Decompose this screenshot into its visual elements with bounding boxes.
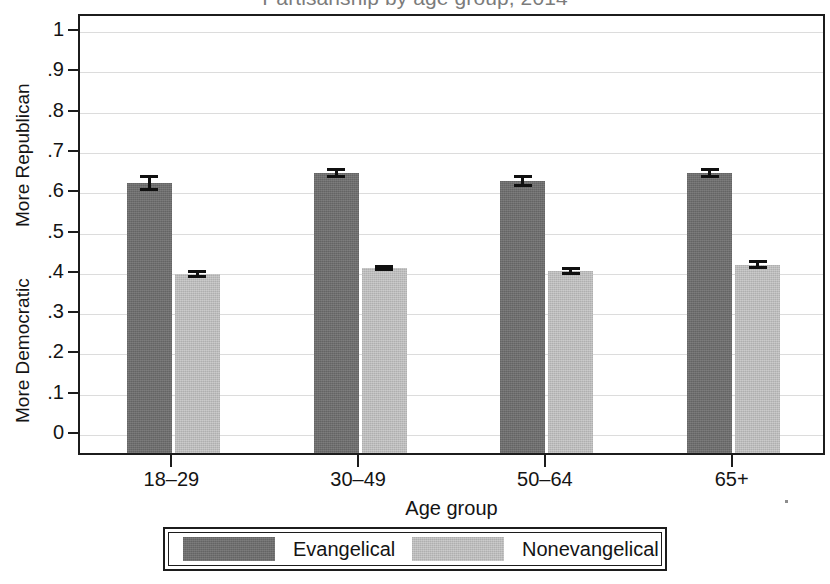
y-axis-label: .2 [12,341,64,361]
error-bar-cap-bottom [140,188,158,191]
y-axis-label: .3 [12,301,64,321]
x-axis-title: Age group [78,497,825,520]
bar-nonevangelical-65+ [735,265,780,455]
legend-swatch-nonevangelical [412,537,504,561]
error-bar-cap-top [562,267,580,270]
y-axis: 0.1.2.3.4.5.6.7.8.91 [0,0,64,584]
plot-area [78,14,825,455]
x-axis-tick [357,455,359,467]
x-axis-label-50-64: 50–64 [475,468,615,491]
legend-label-nonevangelical: Nonevangelical [522,538,659,561]
error-bar-cap-bottom [375,268,393,271]
y-axis-label: 0 [12,422,64,442]
error-bar-cap-bottom [701,175,719,178]
scan-artifact [785,500,788,503]
legend-swatch-evangelical [183,537,275,561]
legend-label-evangelical: Evangelical [293,538,395,561]
bar-evangelical-30-49 [314,173,359,455]
x-axis-tick [544,455,546,467]
chart-figure: Partisanship by age group, 2014 More Rep… [0,0,830,584]
y-axis-label: .6 [12,180,64,200]
y-axis-label: .8 [12,100,64,120]
y-axis-label: .7 [12,140,64,160]
x-axis-label-18-29: 18–29 [101,468,241,491]
bar-nonevangelical-50-64 [548,271,593,455]
y-axis-label: .4 [12,261,64,281]
error-bar-cap-bottom [562,272,580,275]
bar-evangelical-18-29 [127,183,172,455]
error-bar-cap-bottom [514,184,532,187]
chart-title: Partisanship by age group, 2014 [0,0,830,10]
legend-entry-evangelical[interactable]: Evangelical [183,537,395,561]
error-bar-cap-top [701,168,719,171]
x-axis-tick [170,455,172,467]
x-axis-label-30-49: 30–49 [288,468,428,491]
gridline [80,72,823,73]
error-bar-cap-top [188,270,206,273]
chart-legend: Evangelical Nonevangelical [163,527,667,571]
bar-nonevangelical-30-49 [362,268,407,455]
bar-evangelical-50-64 [500,181,545,455]
error-bar-cap-bottom [327,175,345,178]
y-axis-label: .1 [12,382,64,402]
gridline [80,153,823,154]
error-bar-cap-bottom [188,275,206,278]
error-bar-cap-top [327,168,345,171]
gridline [80,32,823,33]
y-axis-label: .5 [12,221,64,241]
error-bar-cap-top [514,175,532,178]
x-axis-tick [731,455,733,467]
x-axis-label-65+: 65+ [662,468,802,491]
y-axis-label: 1 [12,19,64,39]
error-bar-cap-top [749,260,767,263]
bar-evangelical-65+ [687,173,732,455]
error-bar-cap-bottom [749,266,767,269]
legend-entry-nonevangelical[interactable]: Nonevangelical [412,537,659,561]
gridline [80,113,823,114]
bar-nonevangelical-18-29 [175,274,220,455]
error-bar-cap-top [140,175,158,178]
y-axis-label: .9 [12,59,64,79]
